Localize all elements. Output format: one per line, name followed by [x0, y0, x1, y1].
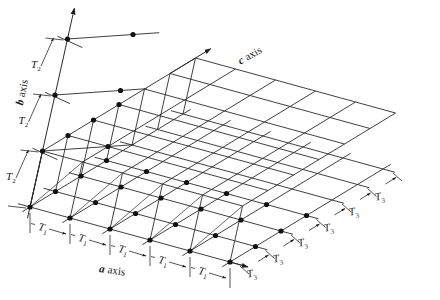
vertical-line — [150, 184, 163, 240]
lattice-diagram — [0, 0, 440, 300]
lattice-point — [67, 215, 72, 220]
lattice-point — [304, 213, 309, 218]
lattice-point — [104, 158, 109, 163]
lattice-point — [227, 259, 232, 264]
t2-arrow — [29, 94, 42, 122]
lattice-point — [187, 248, 192, 253]
upper-plane-line-a — [68, 136, 268, 191]
t3-arrow — [386, 178, 397, 185]
lattice-point — [78, 173, 83, 178]
lattice-point — [278, 228, 283, 233]
lattice-point — [116, 102, 121, 107]
lattice-point — [173, 222, 178, 227]
lattice-point — [118, 184, 123, 189]
t2-label: T2 — [6, 171, 16, 185]
plane-line-a — [95, 157, 319, 219]
vertical-line — [110, 173, 123, 229]
t1-arrow — [129, 251, 146, 256]
upper-plane-line-a — [196, 58, 396, 113]
lattice-point — [93, 200, 98, 205]
vertical-line — [70, 162, 83, 218]
vertical-line — [183, 58, 196, 114]
vertical-line — [190, 195, 203, 251]
t1-arrow — [49, 229, 66, 234]
lattice-point — [105, 144, 110, 149]
lattice-point — [238, 217, 243, 222]
period-subscript: 3 — [355, 211, 360, 219]
t2-tick — [33, 94, 51, 96]
period-subscript: 3 — [253, 273, 258, 281]
lattice-point — [213, 233, 218, 238]
b-level-line — [55, 89, 147, 95]
lattice-grid — [18, 8, 396, 267]
t3-arrow — [258, 255, 269, 262]
a-axis-arrow — [230, 262, 248, 267]
t3-label: T3 — [322, 221, 334, 237]
lattice-point — [53, 189, 58, 194]
t1-arrow — [209, 273, 226, 278]
t2-tick — [8, 206, 26, 208]
upper-plane-line-a — [43, 151, 243, 206]
vertical-line — [107, 105, 120, 161]
lattice-point — [130, 32, 135, 37]
lattice-point — [158, 195, 163, 200]
axis-letter: a — [98, 262, 105, 275]
axis-word: axis — [107, 263, 126, 277]
lattice-point — [147, 237, 152, 242]
lattice-point — [65, 36, 70, 41]
t1-dash — [31, 224, 35, 225]
upper-plane-line-a — [94, 120, 294, 175]
period-subscript: 2 — [25, 121, 29, 129]
lattice-point — [40, 148, 45, 153]
lattice-point — [107, 226, 112, 231]
t2-tick — [46, 38, 64, 40]
lattice-point — [27, 204, 32, 209]
upper-plane-line-a — [145, 89, 345, 144]
period-subscript: 3 — [278, 258, 283, 266]
vertical-line — [132, 89, 145, 145]
plane-line-a — [146, 126, 370, 188]
t2-label: T2 — [31, 59, 41, 73]
lattice-point — [65, 133, 70, 138]
plane-line-a — [18, 204, 242, 266]
t3-arrow — [335, 209, 346, 216]
t1-arrow — [169, 262, 186, 267]
c-axis-arrow — [170, 49, 211, 74]
upper-plane-line-a — [170, 74, 370, 129]
lattice-point — [52, 92, 57, 97]
t3-label: T3 — [271, 252, 283, 268]
t2-tick — [21, 150, 39, 152]
t1-dash — [191, 268, 195, 269]
plane-line-a — [171, 111, 395, 173]
t1-dash — [151, 257, 155, 258]
lattice-point — [264, 202, 269, 207]
vertical-line — [230, 206, 243, 262]
t3-tick — [393, 173, 402, 181]
t3-label: T3 — [373, 190, 385, 206]
lattice-point — [198, 206, 203, 211]
lattice-point — [118, 88, 123, 93]
t1-arrow — [89, 240, 106, 245]
t2-arrow — [41, 38, 54, 66]
period-subscript: 3 — [304, 242, 309, 250]
t1-dash — [111, 246, 115, 247]
period-subscript: 2 — [37, 65, 41, 73]
b-level-line — [68, 33, 160, 39]
diagonal-line — [30, 162, 83, 207]
t3-arrow — [284, 240, 295, 247]
t2-label: T2 — [19, 115, 29, 129]
vertical-line — [158, 74, 171, 130]
plane-line-a — [69, 173, 293, 235]
lattice-point — [253, 244, 258, 249]
lattice-point — [91, 117, 96, 122]
period-subscript: 3 — [380, 196, 385, 204]
lattice-point — [133, 211, 138, 216]
t2-arrow — [16, 150, 29, 178]
upper-plane-line-a — [119, 105, 319, 160]
period-subscript: 3 — [329, 227, 334, 235]
plane-line-a — [120, 142, 344, 204]
period-subscript: 2 — [12, 177, 16, 185]
t3-arrow — [309, 224, 320, 231]
lattice-point — [224, 191, 229, 196]
dimension-markers — [8, 38, 402, 288]
